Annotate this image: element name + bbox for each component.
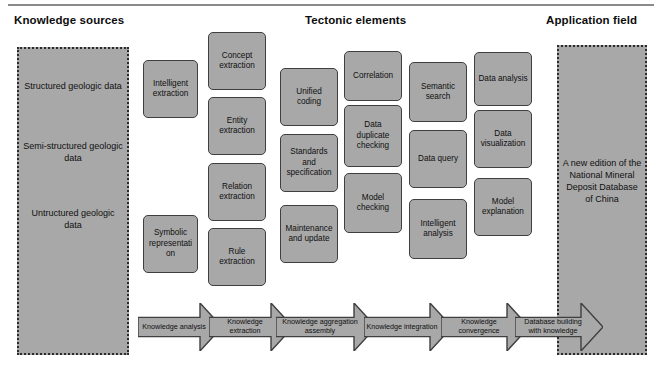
process-box-intelligent-extraction[interactable]: Intelligent extraction — [143, 60, 198, 118]
section-heading-2: Application field — [546, 14, 637, 26]
process-box-concept-extraction[interactable]: Concept extraction — [208, 32, 266, 90]
process-box-correlation[interactable]: Correlation — [344, 51, 402, 101]
process-box-semantic-search[interactable]: Semantic search — [409, 62, 467, 122]
panel-item-label: Structured geologic data — [19, 80, 127, 92]
process-box-maintenance-and-update[interactable]: Maintenance and update — [280, 205, 338, 263]
process-box-model-explanation[interactable]: Model explanation — [474, 178, 532, 236]
process-box-data-duplicate-checking[interactable]: Data duplicate checking — [344, 105, 402, 167]
diagram-canvas: Knowledge sourcesTectonic elementsApplic… — [0, 0, 662, 370]
arrow-knowledge-aggregation-assembly[interactable]: Knowledge aggregation assembly — [276, 303, 376, 351]
arrow-label: Knowledge aggregation assembly — [276, 318, 376, 335]
process-box-standards-and-specification[interactable]: Standards and specification — [280, 134, 338, 192]
process-box-data-analysis[interactable]: Data analysis — [474, 52, 532, 106]
process-box-data-visualization[interactable]: Data visualization — [474, 110, 532, 168]
top-divider-rule — [8, 4, 654, 6]
panel-item-label: Semi-structured geologic data — [19, 140, 127, 164]
process-box-relation-extraction[interactable]: Relation extraction — [208, 163, 266, 221]
process-box-entity-extraction[interactable]: Entity extraction — [208, 97, 266, 155]
section-heading-0: Knowledge sources — [14, 14, 124, 26]
section-heading-1: Tectonic elements — [305, 14, 406, 26]
knowledge-sources-panel: Structured geologic dataSemi-structured … — [17, 47, 129, 355]
process-box-rule-extraction[interactable]: Rule extraction — [208, 228, 266, 286]
process-box-model-checking[interactable]: Model checking — [344, 173, 402, 233]
process-box-intelligent-analysis[interactable]: Intelligent analysis — [409, 199, 467, 259]
process-box-data-query[interactable]: Data query — [409, 130, 467, 188]
process-box-unified-coding[interactable]: Unified coding — [280, 68, 338, 126]
panel-item-label: A new edition of the National Mineral De… — [559, 157, 645, 205]
arrow-label: Database building with knowledge — [515, 318, 603, 335]
arrow-label: Knowledge integration — [364, 323, 452, 332]
process-box-symbolic-representation[interactable]: Symbolic representation — [143, 215, 198, 273]
arrow-knowledge-integration[interactable]: Knowledge integration — [364, 303, 452, 351]
panel-item-label: Untructured geologic data — [19, 207, 127, 231]
arrow-database-building-with-knowledge[interactable]: Database building with knowledge — [515, 303, 603, 351]
